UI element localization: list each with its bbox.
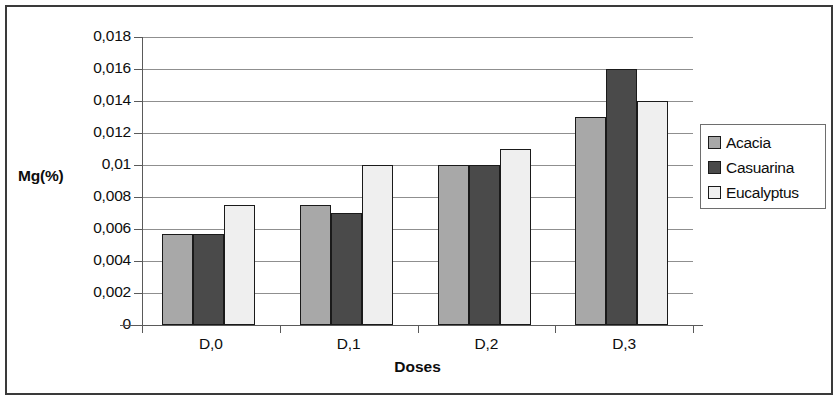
y-axis-tick-label: 0,01 <box>11 155 131 173</box>
legend-entry-acacia[interactable]: Acacia <box>708 130 825 155</box>
legend-entry-eucalyptus[interactable]: Eucalyptus <box>708 180 825 205</box>
legend-swatch-acacia <box>708 136 721 149</box>
x-axis-tick-label: D,1 <box>280 335 418 353</box>
bar-eucalyptus-D0 <box>224 205 255 325</box>
x-axis-tick-mark <box>142 325 143 333</box>
x-axis-title: Doses <box>142 358 693 376</box>
x-axis-tick-label: D,0 <box>142 335 280 353</box>
bar-acacia-D3 <box>575 117 606 325</box>
legend-label: Acacia <box>726 134 771 152</box>
bar-casuarina-D0 <box>193 234 224 325</box>
bar-acacia-D1 <box>300 205 331 325</box>
bar-eucalyptus-D3 <box>637 101 668 325</box>
y-axis-tick-label: 0,018 <box>11 27 131 45</box>
x-axis-line <box>120 325 703 326</box>
bar-casuarina-D1 <box>331 213 362 325</box>
x-axis-tick-mark <box>280 325 281 333</box>
y-axis-tick-label: 0,008 <box>11 187 131 205</box>
y-axis-tick-label: 0,002 <box>11 283 131 301</box>
bar-acacia-D2 <box>438 165 469 325</box>
y-axis-tick-labels: 0,0180,0160,0140,0120,010,0080,0060,0040… <box>0 0 131 410</box>
y-axis-tick-label: 0,012 <box>11 123 131 141</box>
legend-label: Casuarina <box>726 159 794 177</box>
bar-eucalyptus-D2 <box>500 149 531 325</box>
legend-label: Eucalyptus <box>726 184 799 202</box>
bar-casuarina-D2 <box>469 165 500 325</box>
bar-eucalyptus-D1 <box>362 165 393 325</box>
y-axis-tick-label: 0 <box>11 315 131 333</box>
x-axis-tick-label: D,3 <box>555 335 693 353</box>
x-axis-tick-mark <box>418 325 419 333</box>
plot-area <box>142 37 693 325</box>
x-axis-tick-label: D,2 <box>417 335 555 353</box>
x-axis-tick-mark <box>555 325 556 333</box>
x-axis-tick-mark <box>693 325 694 333</box>
y-axis-tick-label: 0,006 <box>11 219 131 237</box>
y-axis-tick-label: 0,014 <box>11 91 131 109</box>
bar-acacia-D0 <box>162 234 193 325</box>
chart-legend: AcaciaCasuarinaEucalyptus <box>700 124 826 209</box>
bar-chart: Mg(%) 0,0180,0160,0140,0120,010,0080,006… <box>0 0 840 410</box>
legend-swatch-casuarina <box>708 161 721 174</box>
y-axis-tick-label: 0,004 <box>11 251 131 269</box>
bar-casuarina-D3 <box>606 69 637 325</box>
legend-entry-casuarina[interactable]: Casuarina <box>708 155 825 180</box>
legend-swatch-eucalyptus <box>708 186 721 199</box>
y-axis-tick-label: 0,016 <box>11 59 131 77</box>
